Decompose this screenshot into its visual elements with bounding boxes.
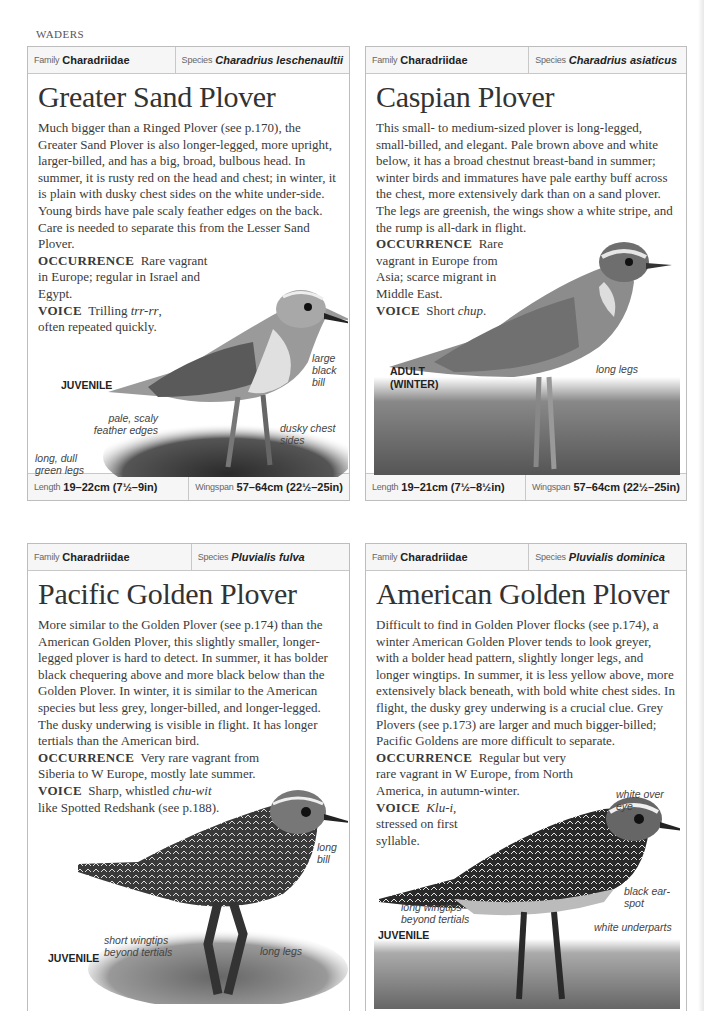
family-label: Family [34,55,59,65]
species-card-greater-sand-plover: Family Charadriidae Species Charadrius l… [27,46,350,501]
species-value: Pluvialis dominica [569,551,665,563]
family-value: Charadriidae [62,54,129,66]
species-value: Charadrius asiaticus [569,54,677,66]
voice-label: VOICE [38,783,82,798]
wingspan-cell: Wingspan 57–64cm (22½–25in) [526,474,686,500]
species-label: Species [182,55,213,65]
annotation-black-ear-spot: black ear-spot [624,885,674,909]
species-card-caspian-plover: Family Charadriidae Species Charadrius a… [365,46,687,501]
occurrence-text: OCCURRENCE Regular but very rare vagrant… [376,750,581,800]
species-cell: Species Charadrius leschenaultii [176,47,349,73]
occurrence-label: OCCURRENCE [376,236,472,251]
card-title: Greater Sand Plover [38,80,349,114]
annotation-long-dull-green-legs: long, dull green legs [35,452,95,476]
wingspan-value: 57–64cm (22½–25in) [237,481,343,493]
voice-text: VOICE Klu-i, stressed on first syllable. [376,800,496,850]
family-label: Family [372,55,397,65]
species-cell: Species Charadrius asiaticus [529,47,686,73]
voice-text: VOICE Trilling trr-rr, often repeated qu… [38,303,188,336]
age-label: JUVENILE [378,929,429,942]
voice-pre: Short [426,303,457,318]
length-cell: Length 19–22cm (7½–9in) [28,474,189,500]
card-description: This small- to medium-sized plover is lo… [376,120,676,236]
voice-pre: Trilling [88,303,131,318]
voice-call: trr-rr [131,303,159,318]
card-title: American Golden Plover [376,577,686,611]
family-value: Charadriidae [62,551,129,563]
annotation-short-wingtips-beyond-tertials: short wingtips beyond tertials [104,934,184,958]
length-label: Length [34,482,60,492]
length-label: Length [372,482,398,492]
annotation-long-wingtips-beyond-tertials: long wingtips beyond tertials [401,901,491,925]
wingspan-cell: Wingspan 57–64cm (22½–25in) [189,474,349,500]
family-cell: Family Charadriidae [28,544,192,570]
annotation-long-legs: long legs [260,945,302,957]
family-value: Charadriidae [400,551,467,563]
occurrence-label: OCCURRENCE [38,253,134,268]
voice-label: VOICE [38,303,82,318]
voice-post: like Spotted Redshank (see p.188). [38,800,219,815]
occurrence-label: OCCURRENCE [376,750,472,765]
species-label: Species [535,55,566,65]
species-value: Charadrius leschenaultii [215,54,343,66]
occurrence-text: OCCURRENCE Rare vagrant in Europe; regul… [38,253,213,303]
species-card-pacific-golden-plover: Family Charadriidae Species Pluvialis fu… [27,543,350,1011]
family-label: Family [34,552,59,562]
annotation-dusky-chest-sides: dusky chest sides [280,422,345,446]
family-label: Family [372,552,397,562]
annotation-large-black-bill: large black bill [312,352,342,388]
age-label: JUVENILE [48,952,99,965]
species-value: Pluvialis fulva [231,551,304,563]
occurrence-label: OCCURRENCE [38,750,134,765]
family-cell: Family Charadriidae [366,544,529,570]
age-label: JUVENILE [61,379,112,392]
pacific-golden-plover-illustration [68,784,348,1004]
occurrence-text: OCCURRENCE Very rare vagrant from Siberi… [38,750,278,783]
annotation-white-over-eye: white over eye [616,788,676,812]
annotation-long-legs: long legs [596,363,638,375]
length-cell: Length 19–21cm (7½–8½in) [366,474,526,500]
species-label: Species [535,552,566,562]
card-description: More similar to the Golden Plover (see p… [38,617,339,750]
card-header: Family Charadriidae Species Charadrius l… [28,47,349,74]
length-value: 19–21cm (7½–8½in) [401,481,504,493]
wingspan-value: 57–64cm (22½–25in) [573,481,679,493]
wingspan-label: Wingspan [195,482,233,492]
species-cell: Species Pluvialis dominica [529,544,686,570]
age-label: ADULT (WINTER) [390,365,450,391]
voice-label: VOICE [376,800,420,815]
card-description: Much bigger than a Ringed Plover (see p.… [38,120,339,253]
card-header: Family Charadriidae Species Pluvialis do… [366,544,686,571]
section-label: WADERS [36,28,84,40]
voice-call: chu-wit [173,783,212,798]
wingspan-label: Wingspan [532,482,570,492]
card-header: Family Charadriidae Species Charadrius a… [366,47,686,74]
voice-call: chup [458,303,483,318]
annotation-white-underparts: white underparts [594,921,672,933]
voice-call: Klu-i [426,800,453,815]
annotation-pale-scaly-feather-edges: pale, scaly feather edges [78,412,158,436]
family-value: Charadriidae [400,54,467,66]
card-footer: Length 19–22cm (7½–9in) Wingspan 57–64cm… [28,473,349,500]
species-cell: Species Pluvialis fulva [192,544,349,570]
species-label: Species [198,552,229,562]
voice-label: VOICE [376,303,420,318]
species-card-american-golden-plover: Family Charadriidae Species Pluvialis do… [365,543,687,1011]
length-value: 19–22cm (7½–9in) [63,481,157,493]
occurrence-text: OCCURRENCE Rare vagrant in Europe from A… [376,236,526,302]
voice-text: VOICE Short chup. [376,303,576,320]
card-footer: Length 19–21cm (7½–8½in) Wingspan 57–64c… [366,473,686,500]
family-cell: Family Charadriidae [28,47,176,73]
voice-pre: Sharp, whistled [88,783,172,798]
card-title: Caspian Plover [376,80,686,114]
card-description: Difficult to find in Golden Plover flock… [376,617,676,750]
voice-post: . [483,303,486,318]
card-title: Pacific Golden Plover [38,577,349,611]
voice-text: VOICE Sharp, whistled chu-wit like Spott… [38,783,228,816]
page-edge [698,0,704,1011]
card-header: Family Charadriidae Species Pluvialis fu… [28,544,349,571]
family-cell: Family Charadriidae [366,47,529,73]
annotation-long-bill: long bill [317,841,347,865]
